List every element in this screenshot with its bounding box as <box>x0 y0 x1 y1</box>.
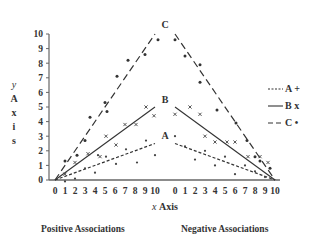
point-b <box>144 105 147 108</box>
y-tick-label: 7 <box>38 73 43 83</box>
legend: A +B xC • <box>268 83 300 128</box>
y-tick-label: 2 <box>38 146 43 156</box>
point-b <box>266 161 269 164</box>
legend-label-c: C • <box>285 117 299 128</box>
trend-line-c <box>55 34 155 180</box>
x-tick-label: 0 <box>173 186 178 196</box>
point-b <box>98 155 101 158</box>
x-tick-label: 1 <box>183 186 188 196</box>
x-tick-label: 3 <box>83 186 88 196</box>
point-b <box>203 135 206 138</box>
point-a <box>204 150 206 152</box>
point-b <box>114 143 117 146</box>
point-c <box>104 101 107 104</box>
point-b <box>225 140 228 143</box>
x-tick-label: 4 <box>213 186 218 196</box>
annotation-a: A <box>161 130 169 141</box>
point-a <box>224 156 226 158</box>
axes: 012345678910012345678910012345678910 <box>34 29 281 196</box>
point-b <box>233 140 236 143</box>
point-b <box>134 123 137 126</box>
point-a <box>84 167 86 169</box>
point-a <box>214 164 216 166</box>
x-tick-label: 8 <box>133 186 138 196</box>
y-tick-label: 4 <box>38 117 43 127</box>
point-b <box>173 113 176 116</box>
point-c <box>235 122 238 125</box>
y-axis-letter: i <box>13 121 16 132</box>
x-tick-label: 9 <box>143 186 148 196</box>
point-c <box>144 53 147 56</box>
x-tick-label: 2 <box>73 186 78 196</box>
point-a <box>194 158 196 160</box>
x-tick-label: 4 <box>93 186 98 196</box>
point-c <box>254 155 257 158</box>
x-tick-label: 3 <box>203 186 208 196</box>
y-tick-label: 9 <box>38 44 43 54</box>
x-tick-label: 2 <box>193 186 198 196</box>
y-tick-label: 10 <box>34 29 44 39</box>
point-c <box>216 108 219 111</box>
trend-line-b <box>55 107 155 180</box>
y-tick-label: 8 <box>38 59 43 69</box>
x-tick-label: 6 <box>113 186 118 196</box>
point-a <box>125 148 127 150</box>
x-tick-label: 0 <box>53 186 58 196</box>
x-tick-label: 6 <box>233 186 238 196</box>
y-axis-label: yAxis <box>10 79 18 146</box>
point-a <box>184 145 186 147</box>
point-c <box>246 139 249 142</box>
point-c <box>199 81 202 84</box>
point-a <box>154 154 156 156</box>
y-axis-letter: A <box>10 93 18 104</box>
y-tick-label: 5 <box>38 102 43 112</box>
trend-lines <box>55 34 275 180</box>
y-axis-letter: y <box>11 79 17 90</box>
point-c <box>199 63 202 66</box>
point-a <box>64 180 66 182</box>
series-annotations: CBA <box>161 19 169 141</box>
point-a <box>244 164 246 166</box>
annotation-c: C <box>161 19 168 30</box>
x-axis-label: x Axis <box>151 201 178 212</box>
point-c <box>174 38 177 41</box>
annotation-b: B <box>162 94 169 105</box>
point-a <box>234 173 236 175</box>
point-b <box>104 135 107 138</box>
x-axis-title: x Axis <box>151 201 178 212</box>
y-tick-label: 3 <box>38 132 43 142</box>
x-tick-label: 7 <box>243 186 248 196</box>
x-tick-label: 9 <box>263 186 268 196</box>
point-c <box>184 54 187 57</box>
point-b <box>123 123 126 126</box>
x-tick-label: 1 <box>63 186 68 196</box>
trend-line-b <box>175 107 275 180</box>
y-tick-label: 1 <box>38 161 43 171</box>
point-a <box>94 172 96 174</box>
x-tick-label: 5 <box>103 186 108 196</box>
point-b <box>86 152 89 155</box>
point-b <box>198 113 201 116</box>
point-c <box>64 160 67 163</box>
point-c <box>76 154 79 157</box>
point-a <box>254 170 256 172</box>
point-c <box>106 110 109 113</box>
data-points <box>63 38 271 182</box>
legend-label-a: A + <box>285 83 300 94</box>
scatter-chart: 012345678910012345678910012345678910 yAx… <box>0 0 315 239</box>
x-tick-label: 5 <box>223 186 228 196</box>
point-c <box>259 160 262 163</box>
point-c <box>84 139 87 142</box>
y-tick-label: 0 <box>38 175 43 185</box>
y-tick-label: 6 <box>38 88 43 98</box>
y-axis-letter: s <box>12 135 16 146</box>
x-tick-label: 10 <box>150 186 160 196</box>
point-b <box>152 114 155 117</box>
point-a <box>145 139 147 141</box>
point-a <box>105 156 107 158</box>
x-tick-label: 8 <box>253 186 258 196</box>
point-a <box>264 176 266 178</box>
point-b <box>213 140 216 143</box>
point-b <box>246 155 249 158</box>
point-a <box>174 135 176 137</box>
